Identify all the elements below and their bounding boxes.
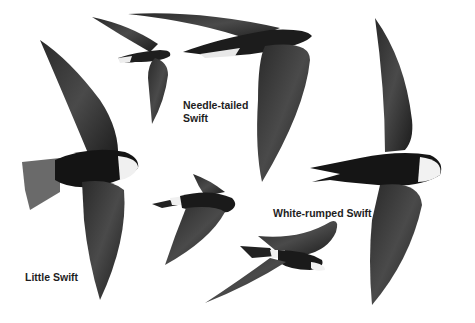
needle-tailed-label-line1: Needle-tailed [183,99,248,112]
white-rumped-swift-label: White-rumped Swift [273,207,372,220]
needle-tailed-swift-label: Needle-tailed Swift [183,99,248,125]
white-rumped-swift-large [310,18,441,305]
little-swift-label: Little Swift [25,271,78,284]
white-rumped-swift-small [205,221,337,303]
needle-tailed-label-line2: Swift [183,112,248,125]
little-swift-small [152,174,235,265]
little-swift-large [22,40,138,300]
swift-illustration-plate: Needle-tailed Swift White-rumped Swift L… [0,0,475,323]
